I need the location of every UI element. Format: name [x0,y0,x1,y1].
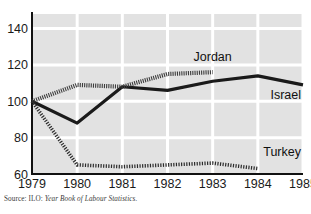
x-tick-label: 1979 [18,177,46,190]
x-tick-label: 1981 [108,177,136,190]
figure: 6080100120140 19791980198119821983198419… [0,0,311,214]
x-tick-label: 1984 [244,177,272,190]
y-tick-labels: 6080100120140 [7,22,28,181]
x-tick-labels: 1979198019811982198319841985 [18,177,311,190]
y-tick-label: 140 [7,22,28,36]
y-tick-label: 80 [14,131,28,145]
source-note: Source: ILO: Year Book of Labour Statist… [4,195,137,203]
y-tick-label: 120 [7,58,28,72]
source-title: Year Book of Labour Statistics. [45,195,138,203]
series-label-turkey: Turkey [263,145,301,159]
x-tick-label: 1983 [199,177,227,190]
x-tick-label: 1985 [289,177,311,190]
x-tick-label: 1982 [154,177,182,190]
source-prefix: Source: ILO: [4,195,43,203]
line-chart: 6080100120140 19791980198119821983198419… [0,4,311,190]
series-label-israel: Israel [270,88,301,102]
chart-plot-area: 6080100120140 19791980198119821983198419… [0,4,311,190]
series-label-jordan: Jordan [194,50,232,64]
y-tick-label: 100 [7,95,28,109]
x-tick-label: 1980 [63,177,91,190]
